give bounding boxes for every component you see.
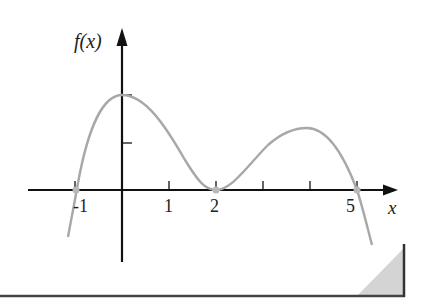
x-axis-label: x	[387, 197, 397, 218]
root-point-5	[354, 187, 361, 194]
x-axis-arrow-icon	[383, 185, 398, 196]
x-tick-label-5: 5	[346, 196, 355, 216]
function-graph: f(x) x -1 1 2 5	[0, 0, 423, 305]
x-tick-label-1: 1	[164, 196, 173, 216]
function-curve	[68, 95, 372, 245]
root-point-neg1	[73, 187, 80, 194]
page-corner-shading	[357, 248, 404, 296]
x-tick-label-neg1: -1	[73, 196, 88, 216]
x-tick-label-2: 2	[210, 196, 219, 216]
y-ticks	[122, 95, 132, 143]
y-axis-label: f(x)	[74, 30, 102, 53]
y-axis-arrow-icon	[117, 28, 128, 46]
root-point-2	[213, 187, 220, 194]
